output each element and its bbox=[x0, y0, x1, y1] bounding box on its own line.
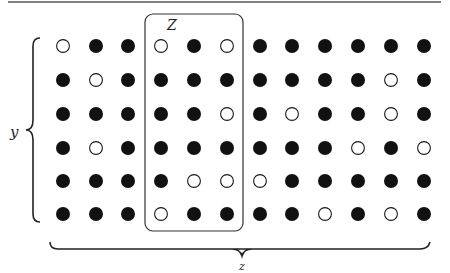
filled-dot bbox=[121, 39, 135, 53]
filled-dot bbox=[154, 73, 168, 87]
filled-dot bbox=[154, 107, 168, 121]
filled-dot bbox=[121, 141, 135, 155]
dot-grid-diagram: Z y z bbox=[0, 0, 450, 273]
filled-dot bbox=[56, 107, 70, 121]
empty-dot bbox=[155, 208, 168, 221]
filled-dot bbox=[220, 141, 234, 155]
y-brace bbox=[26, 38, 40, 222]
empty-dot bbox=[352, 142, 365, 155]
filled-dot bbox=[351, 174, 365, 188]
empty-dot bbox=[385, 74, 398, 87]
filled-dot bbox=[285, 141, 299, 155]
filled-dot bbox=[121, 207, 135, 221]
filled-dot bbox=[318, 174, 332, 188]
filled-dot bbox=[89, 39, 103, 53]
filled-dot bbox=[417, 39, 431, 53]
filled-dot bbox=[187, 39, 201, 53]
y-brace-label: y bbox=[9, 123, 19, 141]
filled-dot bbox=[154, 174, 168, 188]
filled-dot bbox=[417, 174, 431, 188]
filled-dot bbox=[417, 73, 431, 87]
filled-dot bbox=[89, 174, 103, 188]
filled-dot bbox=[187, 207, 201, 221]
filled-dot bbox=[285, 39, 299, 53]
filled-dot bbox=[121, 174, 135, 188]
filled-dot bbox=[285, 207, 299, 221]
empty-dot bbox=[221, 108, 234, 121]
filled-dot bbox=[318, 39, 332, 53]
empty-dot bbox=[221, 175, 234, 188]
filled-dot bbox=[187, 73, 201, 87]
empty-dot bbox=[90, 74, 103, 87]
filled-dot bbox=[121, 107, 135, 121]
filled-dot bbox=[318, 73, 332, 87]
filled-dot bbox=[89, 107, 103, 121]
filled-dot bbox=[351, 39, 365, 53]
z-brace-label: z bbox=[238, 260, 245, 273]
filled-dot bbox=[417, 207, 431, 221]
filled-dot bbox=[56, 207, 70, 221]
empty-dot bbox=[319, 208, 332, 221]
empty-dot bbox=[418, 142, 431, 155]
filled-dot bbox=[253, 141, 267, 155]
filled-dot bbox=[187, 107, 201, 121]
z-brace bbox=[50, 242, 430, 256]
filled-dot bbox=[121, 73, 135, 87]
empty-dot bbox=[155, 40, 168, 53]
empty-dot bbox=[385, 108, 398, 121]
filled-dot bbox=[220, 207, 234, 221]
z-box-label: Z bbox=[166, 17, 177, 33]
filled-dot bbox=[318, 141, 332, 155]
empty-dot bbox=[188, 175, 201, 188]
filled-dot bbox=[253, 39, 267, 53]
filled-dot bbox=[285, 174, 299, 188]
empty-dot bbox=[385, 208, 398, 221]
filled-dot bbox=[187, 141, 201, 155]
filled-dot bbox=[384, 141, 398, 155]
filled-dot bbox=[253, 207, 267, 221]
empty-dot bbox=[221, 40, 234, 53]
filled-dot bbox=[351, 107, 365, 121]
filled-dot bbox=[253, 73, 267, 87]
filled-dot bbox=[351, 73, 365, 87]
filled-dot bbox=[351, 207, 365, 221]
filled-dot bbox=[56, 174, 70, 188]
filled-dot bbox=[285, 73, 299, 87]
empty-dot bbox=[90, 142, 103, 155]
filled-dot bbox=[253, 107, 267, 121]
filled-dot bbox=[384, 174, 398, 188]
empty-dot bbox=[286, 108, 299, 121]
filled-dot bbox=[384, 39, 398, 53]
filled-dot bbox=[318, 107, 332, 121]
filled-dot bbox=[417, 107, 431, 121]
filled-dot bbox=[89, 207, 103, 221]
empty-dot bbox=[254, 175, 267, 188]
filled-dot bbox=[56, 141, 70, 155]
empty-dot bbox=[57, 40, 70, 53]
filled-dot bbox=[154, 141, 168, 155]
filled-dot bbox=[220, 73, 234, 87]
filled-dot bbox=[56, 73, 70, 87]
